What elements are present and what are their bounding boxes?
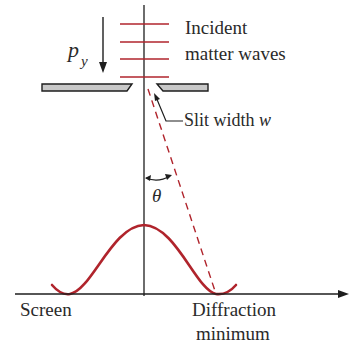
screen-label: Screen	[20, 300, 72, 319]
slit-width-label: Slit width w	[184, 111, 271, 130]
angle-arc	[145, 174, 172, 181]
momentum-symbol: p	[68, 37, 79, 62]
diffraction-minimum-label-line2: minimum	[196, 324, 270, 343]
angle-label: θ	[152, 186, 161, 205]
slit-width-pointer	[154, 93, 183, 121]
single-slit-diffraction-diagram: py Incident matter waves Slit width w θ …	[0, 0, 352, 352]
slit-width-variable: w	[259, 110, 271, 130]
momentum-arrow-icon	[99, 17, 107, 73]
slit-width-text: Slit width	[184, 110, 259, 130]
momentum-subscript: y	[81, 53, 88, 69]
diffraction-minimum-label-line1: Diffraction	[192, 300, 276, 319]
momentum-label: py	[68, 38, 86, 64]
slit-plate-left	[42, 84, 132, 91]
slit-plate-right	[157, 84, 208, 91]
incident-label-line2: matter waves	[185, 44, 286, 63]
screen-axis	[15, 290, 349, 298]
incident-label-line1: Incident	[185, 18, 247, 37]
